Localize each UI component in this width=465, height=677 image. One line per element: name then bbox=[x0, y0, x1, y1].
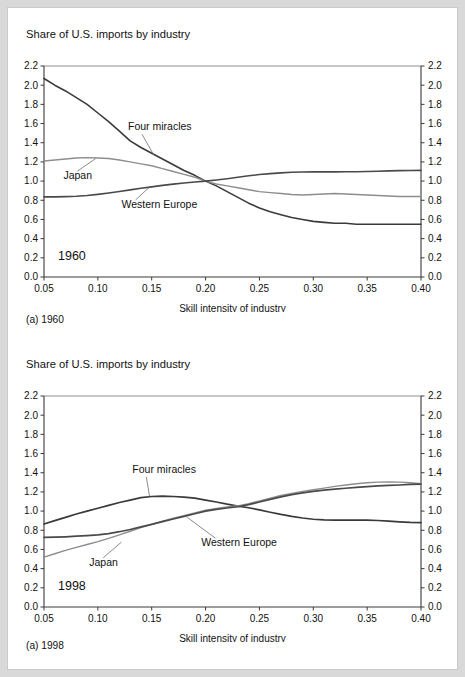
x-tick-label: 0.10 bbox=[88, 283, 108, 294]
y-tick-label-right: 1.2 bbox=[428, 156, 442, 167]
y-tick-label-left: 1.8 bbox=[24, 429, 38, 440]
chart-svg-1998: 0.00.00.20.20.40.40.60.60.80.81.01.01.21… bbox=[8, 370, 457, 642]
y-tick-label-right: 2.0 bbox=[428, 80, 442, 91]
y-tick-label-left: 2.0 bbox=[24, 410, 38, 421]
y-tick-label-left: 2.2 bbox=[24, 60, 38, 71]
y-tick-label-right: 0.2 bbox=[428, 582, 442, 593]
y-tick-label-right: 0.8 bbox=[428, 525, 442, 536]
y-tick-label-left: 0.0 bbox=[24, 601, 38, 612]
y-tick-label-right: 1.4 bbox=[428, 467, 442, 478]
y-tick-label-left: 2.0 bbox=[24, 80, 38, 91]
x-tick-label: 0.25 bbox=[250, 283, 270, 294]
y-tick-label-right: 1.8 bbox=[428, 99, 442, 110]
chart-caption-1960: (a) 1960 bbox=[26, 314, 64, 325]
x-tick-label: 0.35 bbox=[357, 613, 377, 624]
y-tick-label-right: 1.0 bbox=[428, 175, 442, 186]
y-tick-label-right: 1.6 bbox=[428, 118, 442, 129]
y-tick-label-left: 2.2 bbox=[24, 390, 38, 401]
y-tick-label-left: 1.8 bbox=[24, 99, 38, 110]
y-tick-label-right: 2.0 bbox=[428, 410, 442, 421]
x-tick-label: 0.10 bbox=[88, 613, 108, 624]
y-tick-label-left: 1.6 bbox=[24, 448, 38, 459]
y-tick-label-left: 0.6 bbox=[24, 214, 38, 225]
figure-sheet: Share of U.S. imports by industry 0.00.0… bbox=[8, 8, 457, 669]
y-tick-label-right: 2.2 bbox=[428, 60, 442, 71]
series-line-four-miracles bbox=[44, 78, 421, 224]
chart-caption-1998: (a) 1998 bbox=[26, 640, 64, 651]
series-line-western-europe bbox=[44, 170, 421, 197]
x-tick-label: 0.35 bbox=[357, 283, 377, 294]
series-line-japan bbox=[44, 158, 421, 197]
series-label-western-europe: Western Europe bbox=[201, 536, 277, 548]
y-tick-label-right: 1.8 bbox=[428, 429, 442, 440]
x-tick-label: 0.05 bbox=[34, 283, 54, 294]
year-annotation: 1998 bbox=[58, 579, 86, 593]
y-tick-label-left: 1.6 bbox=[24, 118, 38, 129]
y-tick-label-left: 1.0 bbox=[24, 175, 38, 186]
y-tick-label-left: 1.2 bbox=[24, 486, 38, 497]
x-tick-label: 0.05 bbox=[34, 613, 54, 624]
y-tick-label-left: 0.2 bbox=[24, 582, 38, 593]
x-axis-title: Skill intensity of industry bbox=[179, 303, 286, 312]
x-tick-label: 0.40 bbox=[411, 283, 431, 294]
y-tick-label-left: 1.2 bbox=[24, 156, 38, 167]
y-tick-label-left: 0.4 bbox=[24, 563, 38, 574]
y-tick-label-left: 0.8 bbox=[24, 195, 38, 206]
x-tick-label: 0.40 bbox=[411, 613, 431, 624]
y-tick-label-left: 1.0 bbox=[24, 505, 38, 516]
x-tick-label: 0.30 bbox=[304, 613, 324, 624]
chart-title-1998: Share of U.S. imports by industry bbox=[26, 358, 190, 370]
y-tick-label-left: 0.4 bbox=[24, 233, 38, 244]
series-label-japan: Japan bbox=[89, 556, 118, 568]
y-tick-label-right: 0.0 bbox=[428, 271, 442, 282]
x-tick-label: 0.25 bbox=[250, 613, 270, 624]
series-line-four-miracles bbox=[44, 496, 421, 524]
y-tick-label-right: 2.2 bbox=[428, 390, 442, 401]
y-tick-label-right: 0.6 bbox=[428, 214, 442, 225]
y-tick-label-left: 0.0 bbox=[24, 271, 38, 282]
y-tick-label-right: 1.0 bbox=[428, 505, 442, 516]
figure-page: Share of U.S. imports by industry 0.00.0… bbox=[0, 0, 465, 677]
series-label-four-miracles: Four miracles bbox=[132, 463, 196, 475]
chart-svg-1960: 0.00.00.20.20.40.40.60.60.80.81.01.01.21… bbox=[8, 40, 457, 312]
y-tick-label-right: 1.6 bbox=[428, 448, 442, 459]
y-tick-label-right: 0.4 bbox=[428, 563, 442, 574]
y-tick-label-right: 0.4 bbox=[428, 233, 442, 244]
x-tick-label: 0.30 bbox=[304, 283, 324, 294]
y-tick-label-left: 0.6 bbox=[24, 544, 38, 555]
y-tick-label-left: 1.4 bbox=[24, 467, 38, 478]
y-tick-label-left: 1.4 bbox=[24, 137, 38, 148]
chart-panel-1960: Share of U.S. imports by industry 0.00.0… bbox=[8, 14, 457, 344]
x-axis-title: Skill intensity of industry bbox=[179, 633, 286, 642]
y-tick-label-left: 0.8 bbox=[24, 525, 38, 536]
chart-title-1960: Share of U.S. imports by industry bbox=[26, 28, 190, 40]
y-tick-label-right: 1.4 bbox=[428, 137, 442, 148]
y-tick-label-right: 0.2 bbox=[428, 252, 442, 263]
y-tick-label-right: 0.0 bbox=[428, 601, 442, 612]
y-tick-label-left: 0.2 bbox=[24, 252, 38, 263]
series-line-western-europe bbox=[44, 484, 421, 537]
y-tick-label-right: 0.8 bbox=[428, 195, 442, 206]
series-label-western-europe: Western Europe bbox=[122, 198, 198, 210]
chart-panel-1998: Share of U.S. imports by industry 0.00.0… bbox=[8, 344, 457, 669]
x-tick-label: 0.20 bbox=[196, 283, 216, 294]
x-tick-label: 0.20 bbox=[196, 613, 216, 624]
series-label-four-miracles: Four miracles bbox=[128, 120, 192, 132]
y-tick-label-right: 1.2 bbox=[428, 486, 442, 497]
x-tick-label: 0.15 bbox=[142, 283, 162, 294]
x-tick-label: 0.15 bbox=[142, 613, 162, 624]
y-tick-label-right: 0.6 bbox=[428, 544, 442, 555]
year-annotation: 1960 bbox=[58, 249, 86, 263]
series-label-japan: Japan bbox=[63, 169, 92, 181]
